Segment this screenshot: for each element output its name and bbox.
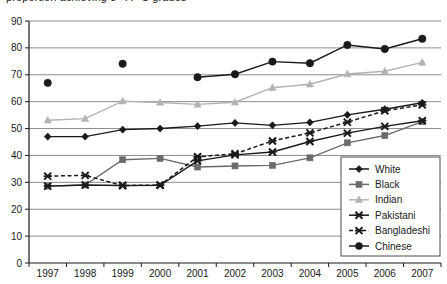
data-point-marker <box>231 71 238 78</box>
data-point-marker <box>44 79 51 86</box>
x-tick-label: 1997 <box>37 268 60 279</box>
y-tick-label: 10 <box>11 231 23 242</box>
legend-label: Black <box>375 179 400 190</box>
data-point-marker <box>269 162 275 168</box>
data-point-marker <box>356 243 363 250</box>
chart-legend: WhiteBlackIndianPakistaniBangladeshiChin… <box>341 157 440 256</box>
y-tick-label: 90 <box>11 16 23 27</box>
data-point-marker <box>195 164 201 170</box>
y-tick-label: 40 <box>11 150 23 161</box>
data-point-marker <box>344 41 351 48</box>
data-point-marker <box>344 111 351 118</box>
x-tick-label: 2004 <box>299 268 322 279</box>
data-point-marker <box>157 125 164 132</box>
data-point-marker <box>269 58 276 65</box>
x-tick-label: 2001 <box>186 268 209 279</box>
y-tick-label: 50 <box>11 123 23 134</box>
data-point-marker <box>343 130 351 137</box>
y-tick-label: 80 <box>11 42 23 53</box>
data-point-marker <box>356 181 362 187</box>
series-line <box>198 39 423 77</box>
x-tick-label: 1999 <box>112 268 135 279</box>
data-point-marker <box>344 140 350 146</box>
data-point-marker <box>157 155 163 161</box>
legend-label: Pakistani <box>375 210 416 221</box>
data-point-marker <box>306 60 313 67</box>
x-tick-label: 2002 <box>224 268 247 279</box>
data-point-marker <box>119 126 126 133</box>
legend-label: Bangladeshi <box>375 225 430 236</box>
data-point-marker <box>194 73 201 80</box>
data-point-marker <box>307 155 313 161</box>
data-point-marker <box>268 137 276 144</box>
chart-container: proportion achieving 5+ A*-C grades 0102… <box>0 0 447 284</box>
x-axis-tick-labels: 1997199819992000200120022003200420052006… <box>37 268 434 279</box>
x-tick-label: 2000 <box>149 268 172 279</box>
data-point-marker <box>381 45 388 52</box>
x-tick-label: 2005 <box>336 268 359 279</box>
data-point-marker <box>382 133 388 139</box>
x-tick-label: 2006 <box>374 268 397 279</box>
data-point-marker <box>268 148 276 155</box>
series-chinese <box>44 35 426 86</box>
data-point-marker <box>120 157 126 163</box>
data-point-marker <box>82 133 89 140</box>
data-point-marker <box>306 129 314 136</box>
legend-label: Chinese <box>375 241 412 252</box>
data-point-marker <box>306 138 314 145</box>
series-indian <box>44 59 426 123</box>
data-point-marker <box>44 133 51 140</box>
data-point-marker <box>232 163 238 169</box>
data-point-marker <box>343 119 351 126</box>
data-point-marker <box>307 119 314 126</box>
data-point-marker <box>269 122 276 129</box>
data-point-marker <box>44 173 52 180</box>
data-point-marker <box>119 182 127 189</box>
data-point-marker <box>119 60 126 67</box>
legend-label: White <box>375 164 401 175</box>
y-tick-label: 20 <box>11 204 23 215</box>
y-tick-label: 60 <box>11 96 23 107</box>
legend-label: Indian <box>375 194 402 205</box>
x-tick-label: 2007 <box>411 268 434 279</box>
y-axis-tick-labels: 0102030405060708090 <box>11 16 23 269</box>
y-tick-label: 70 <box>11 69 23 80</box>
data-point-marker <box>419 59 426 66</box>
data-point-marker <box>232 119 239 126</box>
data-point-marker <box>81 172 89 179</box>
y-tick-label: 30 <box>11 177 23 188</box>
data-point-marker <box>419 35 426 42</box>
x-tick-label: 1998 <box>74 268 97 279</box>
y-tick-label: 0 <box>16 258 22 269</box>
line-chart-plot: 0102030405060708090 19971998199920002001… <box>0 0 447 284</box>
x-tick-label: 2003 <box>261 268 284 279</box>
data-point-marker <box>193 153 201 160</box>
